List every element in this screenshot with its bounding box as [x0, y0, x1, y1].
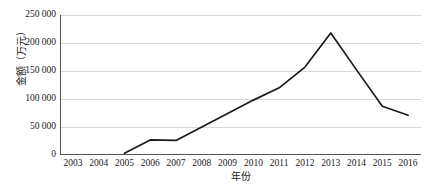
x-tick-label: 2013	[321, 158, 340, 169]
chart-title	[0, 0, 429, 7]
gridlines	[60, 15, 421, 127]
x-tick-label: 2012	[295, 158, 314, 169]
x-tick-label: 2014	[347, 158, 366, 169]
plot-area	[60, 15, 421, 155]
y-tick-label: 50 000	[10, 122, 56, 132]
y-axis-tick-labels: 050 000100 000150 000200 000250 000	[8, 0, 56, 187]
x-axis-tick-labels: 2003200420052006200720082009201020112012…	[60, 158, 421, 172]
x-tick-label: 2015	[373, 158, 392, 169]
x-tick-label: 2006	[141, 158, 160, 169]
y-tick-label: 200 000	[10, 38, 56, 48]
x-tick-label: 2004	[89, 158, 108, 169]
x-tick-label: 2011	[270, 158, 289, 169]
x-tick-label: 2005	[115, 158, 134, 169]
x-tick-label: 2009	[218, 158, 237, 169]
x-tick-label: 2008	[192, 158, 211, 169]
x-axis-title: 年份	[60, 171, 421, 183]
data-series	[124, 33, 408, 153]
x-tick-label: 2016	[399, 158, 418, 169]
y-tick-label: 100 000	[10, 94, 56, 104]
series-line	[124, 33, 408, 153]
x-tick-label: 2010	[244, 158, 263, 169]
plot-svg	[60, 15, 421, 155]
x-tick-label: 2003	[63, 158, 82, 169]
x-tick-label: 2007	[167, 158, 186, 169]
y-tick-label: 250 000	[10, 10, 56, 20]
y-tick-label: 0	[10, 150, 56, 160]
y-tick-label: 150 000	[10, 66, 56, 76]
line-chart: 金额（万元） 050 000100 000150 000200 000250 0…	[0, 0, 429, 187]
